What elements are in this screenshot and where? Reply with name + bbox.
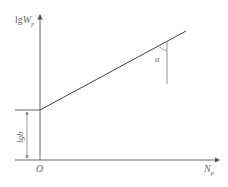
origin-label: O xyxy=(36,163,43,174)
angle-label: a xyxy=(155,54,160,64)
diagram-canvas: lgWp Np O lgb a xyxy=(0,0,228,187)
regression-line xyxy=(40,31,186,110)
y-axis-label: lgWp xyxy=(15,14,34,27)
intercept-label: lgb xyxy=(15,131,25,143)
x-axis-label: Np xyxy=(203,163,214,176)
angle-arc xyxy=(160,45,168,50)
